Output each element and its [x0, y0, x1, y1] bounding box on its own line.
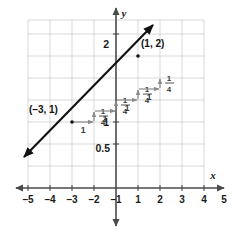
- point-label-right: (1, 2): [141, 38, 164, 49]
- run-label-2: 1: [103, 114, 108, 124]
- x-tick-label-5: 5: [221, 194, 227, 205]
- x-tick-label-1: 1: [135, 194, 141, 205]
- x-tick-label-neg2: –2: [88, 194, 100, 205]
- x-tick-label-4: 4: [201, 194, 207, 205]
- point-marker-right: [136, 54, 140, 58]
- run-label-3: 1: [125, 103, 130, 113]
- y-tick-label-0point5: 0.5: [95, 142, 110, 154]
- point-label-left: (–3, 1): [29, 104, 58, 115]
- x-tick-label-neg1: –1: [110, 194, 122, 205]
- y-tick-label-2: 2: [103, 38, 109, 50]
- x-tick-label-3: 3: [179, 194, 185, 205]
- coordinate-graph-figure: x y –5 –4 –3 –2 –1 1 2 3 4 5 2 1 0.5 1 1…: [0, 0, 240, 233]
- run-label-1: 1: [81, 125, 86, 135]
- run-label-4: 1: [147, 92, 152, 102]
- rise-numerator-4: 1: [167, 74, 172, 83]
- plotted-line: [24, 25, 153, 157]
- x-axis-label: x: [209, 169, 216, 181]
- x-tick-label-neg3: –3: [66, 194, 78, 205]
- graph-canvas: x y –5 –4 –3 –2 –1 1 2 3 4 5 2 1 0.5 1 1…: [0, 0, 240, 233]
- x-tick-label-neg5: –5: [22, 194, 34, 205]
- rise-denominator-4: 4: [167, 85, 172, 94]
- y-axis-label: y: [120, 7, 127, 19]
- x-tick-label-neg4: –4: [44, 194, 56, 205]
- point-marker-left: [70, 120, 74, 124]
- x-tick-label-2: 2: [157, 194, 163, 205]
